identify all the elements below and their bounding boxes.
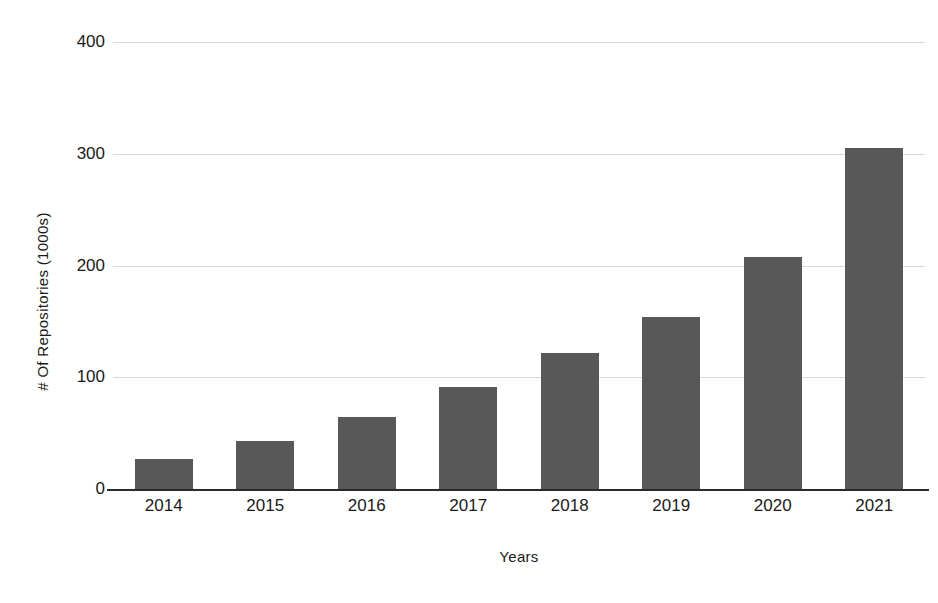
bars-layer: [113, 42, 925, 489]
y-tick-label: 300: [59, 144, 105, 164]
bar-2018: [541, 353, 599, 489]
bar-2015: [236, 441, 294, 489]
x-axis-line: [107, 489, 929, 491]
x-tick-label: 2015: [215, 496, 317, 516]
x-axis-title: Years: [113, 548, 925, 565]
x-tick-label: 2017: [418, 496, 520, 516]
x-axis-tick-labels: 20142015201620172018201920202021: [113, 496, 925, 526]
x-tick-label: 2021: [824, 496, 926, 516]
bar-2019: [642, 317, 700, 489]
y-tick-label: 0: [59, 479, 105, 499]
bar-2017: [439, 387, 497, 489]
x-tick-label: 2014: [113, 496, 215, 516]
x-tick-label: 2018: [519, 496, 621, 516]
bar-2020: [744, 257, 802, 489]
bar-2014: [135, 459, 193, 489]
x-tick-label: 2019: [621, 496, 723, 516]
x-tick-label: 2016: [316, 496, 418, 516]
bar-chart: # Of Repositories (1000s) 0100200300400 …: [0, 0, 938, 603]
y-tick-label: 400: [59, 32, 105, 52]
bar-2021: [845, 148, 903, 489]
y-tick-label: 100: [59, 367, 105, 387]
y-tick-label: 200: [59, 256, 105, 276]
bar-2016: [338, 417, 396, 489]
y-axis-tick-labels: 0100200300400: [55, 42, 105, 489]
x-tick-label: 2020: [722, 496, 824, 516]
